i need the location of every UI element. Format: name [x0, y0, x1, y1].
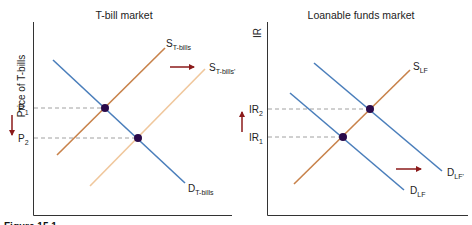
equilibrium-point-2 — [366, 105, 374, 113]
supply-curve-shifted — [90, 69, 205, 186]
loanable-funds-market-panel: Loanable funds market IR SLF DLF' DLF IR… — [242, 9, 468, 216]
equilibrium-point-1 — [101, 104, 109, 112]
demand-shifted-label: DLF' — [447, 167, 464, 180]
supply-shifted-label: ST-bills' — [209, 62, 235, 75]
demand-curve — [290, 93, 404, 190]
figure: T-bill market Price of T-bills ST-bills … — [0, 0, 472, 225]
panel-title: Loanable funds market — [308, 9, 415, 21]
demand-curve-shifted — [314, 63, 442, 171]
ir2-label: IR2 — [249, 104, 263, 117]
p2-label: P2 — [18, 133, 29, 146]
demand-label: DLF — [410, 185, 425, 198]
demand-curve — [53, 60, 185, 183]
demand-label: DT-bills — [188, 183, 214, 196]
figure-caption: Figure 15.1 — [4, 221, 57, 225]
y-axis-label: IR — [252, 28, 263, 38]
equilibrium-point-2 — [134, 134, 142, 142]
t-bill-market-panel: T-bill market Price of T-bills ST-bills … — [12, 9, 235, 216]
ir1-label: IR1 — [249, 132, 263, 145]
supply-curve — [294, 70, 410, 184]
supply-label: ST-bills — [166, 38, 191, 51]
panel-title: T-bill market — [95, 9, 152, 21]
supply-curve — [57, 48, 165, 155]
equilibrium-point-1 — [339, 133, 347, 141]
supply-label: SLF — [413, 61, 428, 74]
